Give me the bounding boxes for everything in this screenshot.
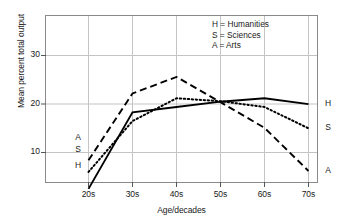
x-tick-label-70s: 70s xyxy=(289,189,329,199)
x-tick-label-30s: 30s xyxy=(113,189,153,199)
x-tick-label-40s: 40s xyxy=(157,189,197,199)
legend-entry-sciences: S = Sciences xyxy=(212,30,269,41)
x-axis-title: Age/decades xyxy=(45,205,318,215)
series-label-left-arts: A xyxy=(72,132,84,142)
chart-figure: Mean percent total output 30 20 10 20s 3… xyxy=(0,0,347,223)
y-tick-label-20: 20 xyxy=(18,98,40,108)
x-tick-label-50s: 50s xyxy=(201,189,241,199)
legend-entry-humanities: H = Humanities xyxy=(212,19,269,30)
legend-entry-arts: A = Arts xyxy=(212,40,269,51)
series-label-right-sciences: S xyxy=(322,122,334,132)
y-tick-label-10: 10 xyxy=(18,146,40,156)
series-label-left-humanities: H xyxy=(72,160,84,170)
x-tick-label-60s: 60s xyxy=(245,189,285,199)
chart-legend: H = Humanities S = Sciences A = Arts xyxy=(212,19,269,51)
series-label-left-sciences: S xyxy=(72,144,84,154)
series-label-right-humanities: H xyxy=(322,98,334,108)
x-tick-label-20s: 20s xyxy=(69,189,109,199)
series-line-arts xyxy=(89,77,309,171)
y-tick-label-30: 30 xyxy=(18,49,40,59)
horizontal-gridlines xyxy=(46,56,317,153)
series-label-right-arts: A xyxy=(322,165,334,175)
